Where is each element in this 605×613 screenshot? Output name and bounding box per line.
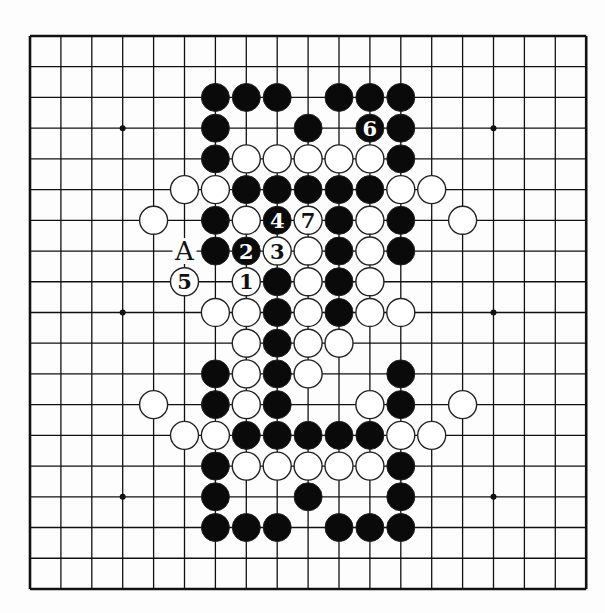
black-stone[interactable] (263, 514, 291, 542)
white-stone[interactable] (356, 391, 384, 419)
black-stone[interactable] (263, 329, 291, 357)
white-stone[interactable] (263, 145, 291, 173)
black-stone[interactable] (201, 514, 229, 542)
black-stone[interactable] (201, 83, 229, 111)
white-stone-3[interactable]: 3 (263, 237, 291, 265)
white-stone-5[interactable]: 5 (171, 268, 199, 296)
black-stone[interactable] (294, 421, 322, 449)
black-stone[interactable] (232, 421, 260, 449)
white-stone[interactable] (140, 391, 168, 419)
white-stone[interactable] (356, 298, 384, 326)
white-stone[interactable] (171, 176, 199, 204)
white-stone[interactable] (232, 452, 260, 480)
white-stone-1[interactable]: 1 (232, 268, 260, 296)
black-stone[interactable] (201, 452, 229, 480)
white-stone[interactable] (294, 298, 322, 326)
black-stone-2[interactable]: 2 (232, 237, 260, 265)
black-stone[interactable] (263, 421, 291, 449)
white-stone[interactable] (232, 329, 260, 357)
go-board[interactable]: 6472351 A (0, 0, 605, 613)
white-stone[interactable] (294, 145, 322, 173)
white-stone[interactable] (263, 452, 291, 480)
black-stone[interactable] (294, 176, 322, 204)
black-stone[interactable] (387, 452, 415, 480)
white-stone[interactable] (232, 360, 260, 388)
white-stone[interactable] (387, 176, 415, 204)
black-stone[interactable] (232, 176, 260, 204)
white-stone[interactable] (232, 391, 260, 419)
white-stone[interactable] (449, 391, 477, 419)
black-stone[interactable] (294, 483, 322, 511)
black-stone[interactable] (387, 514, 415, 542)
white-stone[interactable] (325, 145, 353, 173)
white-stone[interactable] (294, 452, 322, 480)
black-stone[interactable] (263, 360, 291, 388)
black-stone[interactable] (325, 298, 353, 326)
white-stone-icon (140, 206, 168, 234)
white-stone[interactable] (294, 268, 322, 296)
white-stone[interactable] (356, 206, 384, 234)
black-stone[interactable] (387, 83, 415, 111)
white-stone-icon (294, 145, 322, 173)
black-stone[interactable] (263, 391, 291, 419)
white-stone[interactable] (201, 176, 229, 204)
black-stone[interactable] (325, 268, 353, 296)
black-stone[interactable] (294, 114, 322, 142)
white-stone[interactable] (294, 329, 322, 357)
black-stone[interactable] (325, 206, 353, 234)
black-stone[interactable] (356, 83, 384, 111)
black-stone[interactable] (387, 391, 415, 419)
white-stone[interactable] (418, 176, 446, 204)
white-stone[interactable] (232, 298, 260, 326)
black-stone[interactable] (387, 483, 415, 511)
white-stone[interactable] (294, 360, 322, 388)
black-stone-6[interactable]: 6 (356, 114, 384, 142)
black-stone[interactable] (387, 145, 415, 173)
black-stone[interactable] (263, 268, 291, 296)
white-stone[interactable] (387, 298, 415, 326)
black-stone[interactable] (356, 176, 384, 204)
black-stone[interactable] (325, 514, 353, 542)
black-stone[interactable] (387, 206, 415, 234)
black-stone-4[interactable]: 4 (263, 206, 291, 234)
black-stone[interactable] (325, 176, 353, 204)
white-stone[interactable] (325, 329, 353, 357)
black-stone-icon (356, 83, 384, 111)
white-stone[interactable] (140, 206, 168, 234)
black-stone[interactable] (201, 145, 229, 173)
black-stone[interactable] (201, 483, 229, 511)
black-stone[interactable] (201, 114, 229, 142)
black-stone[interactable] (387, 360, 415, 388)
black-stone[interactable] (232, 83, 260, 111)
white-stone[interactable] (356, 237, 384, 265)
black-stone[interactable] (201, 360, 229, 388)
white-stone[interactable] (356, 145, 384, 173)
white-stone[interactable] (294, 237, 322, 265)
black-stone[interactable] (263, 298, 291, 326)
white-stone[interactable] (387, 421, 415, 449)
white-stone[interactable] (232, 145, 260, 173)
black-stone[interactable] (356, 514, 384, 542)
white-stone[interactable] (232, 206, 260, 234)
black-stone[interactable] (201, 206, 229, 234)
black-stone[interactable] (356, 421, 384, 449)
black-stone[interactable] (387, 237, 415, 265)
black-stone[interactable] (201, 237, 229, 265)
white-stone[interactable] (418, 421, 446, 449)
black-stone[interactable] (325, 237, 353, 265)
black-stone[interactable] (201, 391, 229, 419)
black-stone[interactable] (263, 176, 291, 204)
black-stone[interactable] (325, 421, 353, 449)
white-stone[interactable] (201, 421, 229, 449)
white-stone[interactable] (356, 452, 384, 480)
black-stone[interactable] (387, 114, 415, 142)
black-stone[interactable] (325, 83, 353, 111)
white-stone[interactable] (356, 268, 384, 296)
white-stone[interactable] (201, 298, 229, 326)
white-stone-7[interactable]: 7 (294, 206, 322, 234)
white-stone[interactable] (171, 421, 199, 449)
black-stone[interactable] (232, 514, 260, 542)
black-stone[interactable] (263, 83, 291, 111)
white-stone[interactable] (325, 452, 353, 480)
white-stone[interactable] (449, 206, 477, 234)
